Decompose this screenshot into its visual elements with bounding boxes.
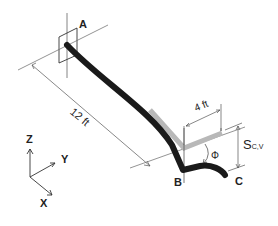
axis-z-label: Z bbox=[26, 134, 33, 145]
angle-arc bbox=[203, 144, 208, 164]
coordinate-axes bbox=[27, 149, 55, 195]
point-c-label: C bbox=[235, 176, 243, 187]
point-a-label: A bbox=[79, 19, 87, 30]
deflection-symbol: S bbox=[243, 137, 252, 152]
dimension-12ft bbox=[32, 63, 150, 166]
axis-x-label: X bbox=[40, 198, 47, 209]
axis-y-label: Y bbox=[61, 154, 68, 165]
deflection-subscript: C,V bbox=[252, 143, 264, 150]
deflection-label: SC,V bbox=[243, 138, 263, 151]
point-b-label: B bbox=[174, 177, 182, 188]
diagram-canvas bbox=[0, 0, 278, 226]
reference-line-a bbox=[18, 25, 108, 70]
angle-phi-label: Φ bbox=[211, 151, 219, 161]
